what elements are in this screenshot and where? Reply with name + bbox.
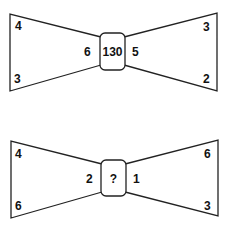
bowtie-1-right-top-number: 3 (203, 21, 210, 33)
bowtie-2-right-top-number: 6 (204, 148, 211, 160)
bowtie-1-right-inner-number: 5 (132, 46, 139, 58)
bowtie-1-left-inner-number: 6 (84, 46, 91, 58)
bowtie-2-left-top-number: 4 (15, 148, 22, 160)
bowtie-1-center-value: 130 (100, 46, 125, 58)
bowtie-2-right-bottom-number: 3 (204, 200, 211, 212)
bowtie-2-left-bottom-number: 6 (15, 200, 22, 212)
bowtie-1-left-top-number: 4 (15, 20, 22, 32)
bowtie-1-right-bottom-number: 2 (203, 73, 210, 85)
bowtie-1-left-bottom-number: 3 (14, 73, 21, 85)
bowtie-2-right-inner-number: 1 (133, 173, 140, 185)
bowtie-diagram (0, 0, 228, 235)
bowtie-2-left-inner-number: 2 (86, 173, 93, 185)
bowtie-2-center-unknown: ? (101, 173, 126, 185)
